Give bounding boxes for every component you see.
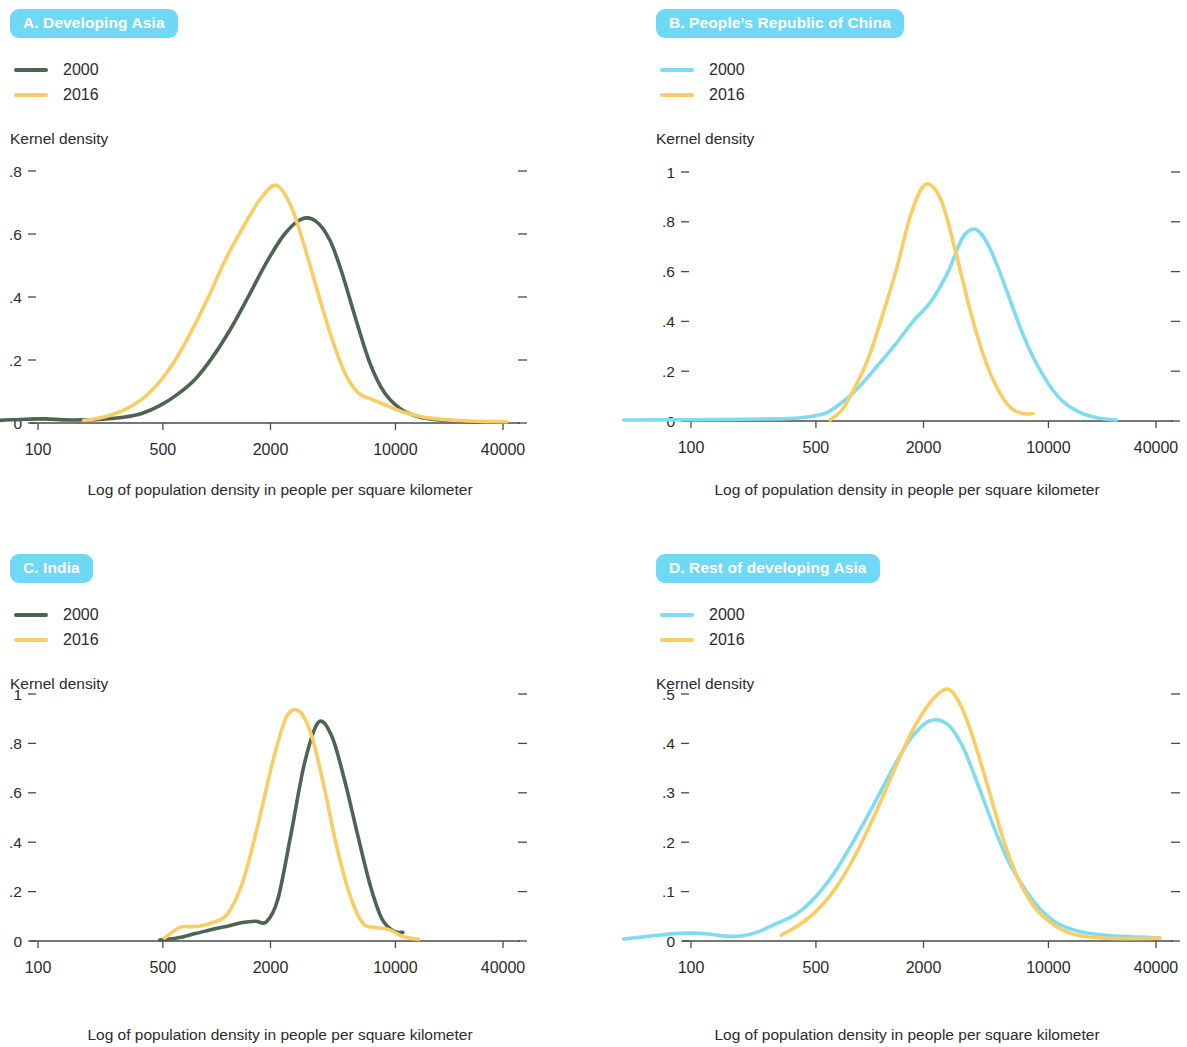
svg-text:.2: .2 [9, 883, 22, 900]
density-curve-2016 [781, 689, 1160, 939]
svg-text:.1: .1 [662, 883, 675, 900]
panel-c-x-axis-label: Log of population density in people per … [0, 1026, 560, 1044]
svg-text:.5: .5 [662, 686, 675, 703]
svg-text:.6: .6 [9, 226, 22, 243]
svg-text:500: 500 [150, 959, 177, 976]
density-curve-2016 [84, 185, 507, 422]
svg-text:100: 100 [678, 439, 705, 456]
svg-text:0: 0 [13, 415, 22, 432]
density-curve-2000 [624, 229, 1117, 420]
svg-text:40000: 40000 [1134, 439, 1179, 456]
svg-text:2000: 2000 [906, 959, 942, 976]
svg-text:500: 500 [150, 441, 177, 458]
panel-a-x-axis-label: Log of population density in people per … [0, 481, 560, 499]
svg-text:.8: .8 [9, 163, 22, 180]
svg-text:1: 1 [13, 686, 22, 703]
svg-text:100: 100 [25, 441, 52, 458]
svg-text:1: 1 [666, 164, 675, 181]
svg-text:100: 100 [678, 959, 705, 976]
svg-text:2000: 2000 [906, 439, 942, 456]
svg-text:.8: .8 [9, 735, 22, 752]
svg-text:.8: .8 [662, 213, 675, 230]
panel-c-plot: 0.2.4.6.8110050020001000040000 [0, 545, 594, 1025]
panel-c: C. India 2000 2016 Kernel density 0.2.4.… [0, 523, 594, 1047]
svg-text:10000: 10000 [1026, 439, 1071, 456]
density-curve-2000 [0, 218, 483, 422]
svg-text:40000: 40000 [481, 959, 526, 976]
svg-text:.4: .4 [9, 834, 22, 851]
svg-text:.4: .4 [662, 313, 675, 330]
panel-d-plot: 0.1.2.3.4.510050020001000040000 [593, 545, 1187, 1025]
svg-text:.6: .6 [9, 784, 22, 801]
svg-text:2000: 2000 [253, 441, 289, 458]
panel-d-x-axis-label: Log of population density in people per … [627, 1026, 1187, 1044]
panel-b: B. People’s Republic of China 2000 2016 … [593, 0, 1187, 523]
svg-text:10000: 10000 [373, 441, 418, 458]
svg-text:500: 500 [803, 439, 830, 456]
svg-text:.2: .2 [662, 363, 675, 380]
svg-text:10000: 10000 [373, 959, 418, 976]
density-curve-2000 [160, 721, 403, 940]
svg-text:.4: .4 [9, 289, 22, 306]
svg-text:10000: 10000 [1026, 959, 1071, 976]
panel-d: D. Rest of developing Asia 2000 2016 Ker… [593, 523, 1187, 1047]
svg-text:100: 100 [25, 959, 52, 976]
svg-text:500: 500 [803, 959, 830, 976]
svg-text:.3: .3 [662, 784, 675, 801]
svg-text:.2: .2 [9, 352, 22, 369]
panel-b-x-axis-label: Log of population density in people per … [627, 481, 1187, 499]
svg-text:.2: .2 [662, 834, 675, 851]
panel-a: A. Developing Asia 2000 2016 Kernel dens… [0, 0, 594, 523]
svg-text:40000: 40000 [1134, 959, 1179, 976]
svg-text:.4: .4 [662, 735, 675, 752]
figure-grid: A. Developing Asia 2000 2016 Kernel dens… [0, 0, 1187, 1047]
svg-text:40000: 40000 [481, 441, 526, 458]
svg-text:.6: .6 [662, 263, 675, 280]
svg-text:0: 0 [13, 933, 22, 950]
density-curve-2000 [624, 720, 1160, 939]
svg-text:2000: 2000 [253, 959, 289, 976]
panel-b-plot: 0.2.4.6.8110050020001000040000 [593, 0, 1187, 480]
panel-a-plot: 0.2.4.6.810050020001000040000 [0, 0, 594, 480]
